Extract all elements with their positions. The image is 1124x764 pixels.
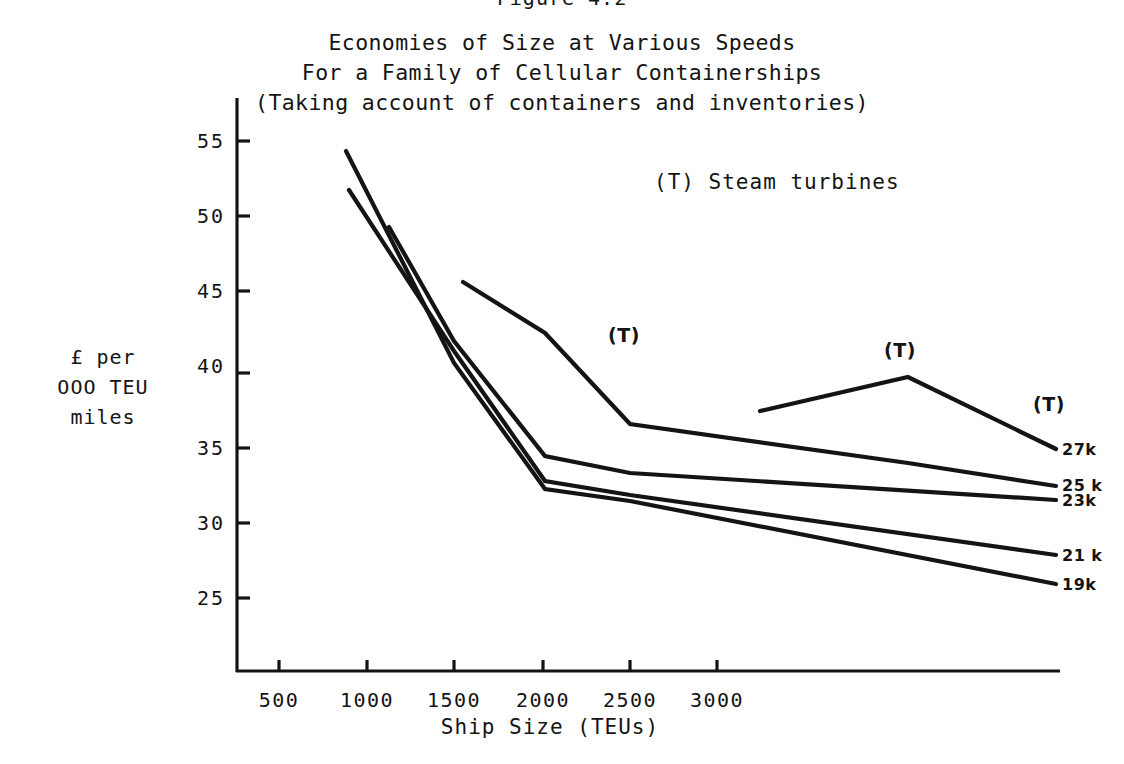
data-series-group [346,151,1056,584]
y-axis-ticks [237,141,250,598]
series-path-27k [760,377,1056,449]
series-path-19k [346,151,1056,584]
x-axis-ticks [279,660,717,671]
series-path-23k [389,227,1056,500]
figure-page: Figure 4.2 Economies of Size at Various … [0,0,1124,764]
axes-lines [236,98,1060,672]
series-path-21k [349,190,1056,555]
plot-area [0,0,1124,764]
